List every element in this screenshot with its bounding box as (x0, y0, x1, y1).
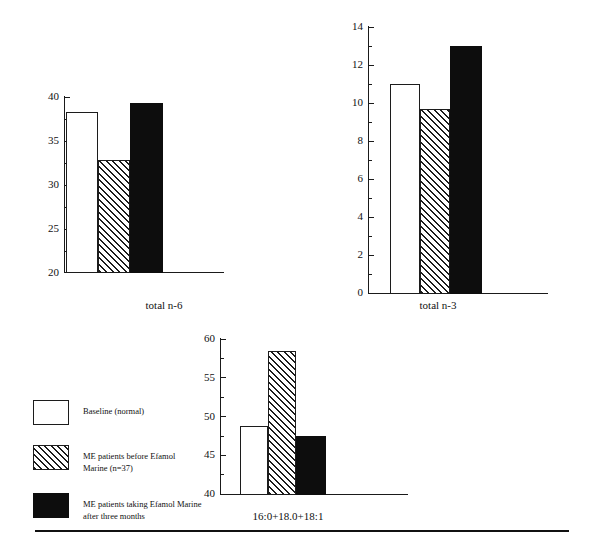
y-minor-tick-n3-4 (368, 160, 372, 161)
y-minor-tick-sat-1 (220, 358, 224, 359)
y-tick-n6-40 (64, 97, 70, 98)
y-tick-label-n3-2: 2 (338, 249, 363, 260)
y-tick-label-n3-4: 4 (338, 211, 363, 222)
y-minor-tick-n3-5 (368, 198, 372, 199)
legend-label-after: ME patients taking Efamol Marine after t… (83, 493, 202, 522)
y-tick-label-n3-10: 10 (338, 97, 363, 108)
y-minor-tick-n3-1 (368, 46, 372, 47)
y-minor-tick-n3-7 (368, 274, 372, 275)
legend-swatch-open-icon (33, 400, 69, 425)
y-tick-n3-2 (368, 255, 374, 256)
bar-n3-before (420, 109, 450, 294)
chart-panel-total-n3: 14 12 10 8 6 4 2 0 total n-3 (330, 0, 589, 320)
y-tick-label-sat-55: 55 (190, 372, 215, 383)
y-tick-label-n6-20: 20 (34, 267, 59, 278)
y-tick-label-n6-25: 25 (34, 223, 59, 234)
y-tick-n3-8 (368, 141, 374, 142)
legend-swatch-solid-icon (33, 493, 69, 518)
bar-n6-after (130, 103, 163, 273)
y-minor-tick-n3-6 (368, 236, 372, 237)
y-tick-label-n6-40: 40 (34, 91, 59, 102)
y-tick-n3-0 (368, 293, 374, 294)
bar-sat-after (296, 436, 326, 495)
chart-panel-total-n6: 40 35 30 25 20 total n-6 (0, 0, 250, 320)
bar-sat-before (268, 351, 296, 495)
legend-item-after: ME patients taking Efamol Marine after t… (33, 493, 243, 522)
legend-label-baseline: Baseline (normal) (83, 400, 144, 418)
legend-label-before: ME patients before Efamol Marine (n=37) (83, 445, 175, 474)
y-minor-tick-sat-2 (220, 397, 224, 398)
y-tick-label-n6-30: 30 (34, 179, 59, 190)
y-tick-label-n3-6: 6 (338, 173, 363, 184)
bottom-horizontal-rule (35, 530, 569, 532)
bar-n3-after (450, 46, 482, 294)
x-axis-label-n6: total n-6 (114, 299, 214, 311)
y-tick-n3-12 (368, 65, 374, 66)
y-tick-n3-4 (368, 217, 374, 218)
bar-n6-baseline (66, 112, 98, 273)
y-tick-label-n3-14: 14 (338, 21, 363, 32)
y-minor-tick-n3-2 (368, 84, 372, 85)
y-tick-n3-14 (368, 27, 374, 28)
bar-n3-baseline (390, 84, 420, 294)
legend-swatch-hatch-icon (33, 445, 69, 470)
y-tick-n3-6 (368, 179, 374, 180)
legend: Baseline (normal) ME patients before Efa… (33, 400, 243, 541)
y-tick-sat-55 (220, 377, 226, 378)
bar-sat-baseline (240, 426, 268, 495)
y-tick-label-n6-35: 35 (34, 135, 59, 146)
y-tick-label-sat-60: 60 (190, 333, 215, 344)
y-minor-tick-n3-3 (368, 122, 372, 123)
legend-item-before: ME patients before Efamol Marine (n=37) (33, 445, 243, 474)
y-tick-label-n3-12: 12 (338, 59, 363, 70)
x-axis-label-n3: total n-3 (388, 299, 488, 311)
y-tick-label-n3-8: 8 (338, 135, 363, 146)
bar-n6-before (98, 160, 130, 273)
y-tick-n3-10 (368, 103, 374, 104)
y-tick-label-n3-0: 0 (338, 287, 363, 298)
legend-item-baseline: Baseline (normal) (33, 400, 243, 426)
y-tick-sat-60 (220, 339, 226, 340)
figure-root: 40 35 30 25 20 total n-6 14 12 10 (0, 0, 589, 546)
